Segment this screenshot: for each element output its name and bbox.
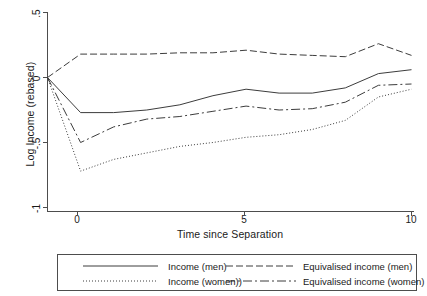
legend: Income (men) Equivalised income (men) In… xyxy=(57,254,417,291)
x-axis-label: Time since Separation xyxy=(48,228,412,240)
legend-label-equivalised-income-men: Equivalised income (men) xyxy=(303,261,412,272)
x-tick-label-1: 5 xyxy=(232,214,256,225)
series-line-2 xyxy=(48,44,412,78)
legend-label-income-women: Income (women)) xyxy=(168,276,242,287)
y-axis-label: Log Income (rebased) xyxy=(24,14,36,214)
y-tick-label-3: -1 xyxy=(31,197,42,221)
y-tick-label-1: 0 xyxy=(31,67,42,91)
series-line-1 xyxy=(48,78,412,172)
series-group xyxy=(48,44,412,171)
y-tick-label-2: -.5 xyxy=(31,132,42,156)
legend-label-income-men: Income (men) xyxy=(168,261,227,272)
x-tick-label-2: 10 xyxy=(399,214,423,225)
chart-figure: Log Income (rebased) Time since Separati… xyxy=(0,0,427,296)
plot-area xyxy=(0,0,427,296)
axis-lines xyxy=(43,12,414,216)
x-tick-label-0: 0 xyxy=(65,214,89,225)
legend-label-equivalised-income-women: Equivalised income (women) xyxy=(303,276,424,287)
series-line-3 xyxy=(48,78,412,143)
series-line-0 xyxy=(48,70,412,113)
y-tick-label-0: .5 xyxy=(31,2,42,26)
